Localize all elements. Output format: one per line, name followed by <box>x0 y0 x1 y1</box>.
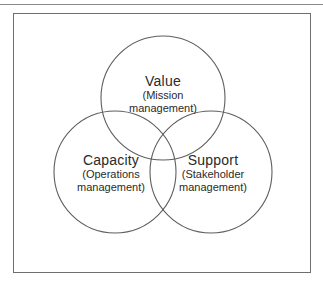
capacity-title: Capacity <box>77 152 145 168</box>
support-subtitle-line2: management) <box>179 181 247 194</box>
capacity-subtitle-line2: management) <box>77 181 145 194</box>
support-title: Support <box>179 152 247 168</box>
venn-diagram <box>0 0 323 285</box>
capacity-subtitle-line1: (Operations <box>77 168 145 181</box>
label-value: Value (Mission management) <box>129 73 197 115</box>
value-subtitle-line2: management) <box>129 102 197 115</box>
value-subtitle-line1: (Mission <box>129 89 197 102</box>
support-subtitle-line1: (Stakeholder <box>179 168 247 181</box>
label-capacity: Capacity (Operations management) <box>77 152 145 194</box>
value-title: Value <box>129 73 197 89</box>
label-support: Support (Stakeholder management) <box>179 152 247 194</box>
